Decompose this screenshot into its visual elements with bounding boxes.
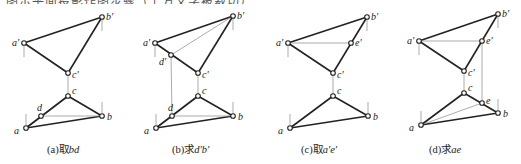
point-e — [480, 101, 485, 106]
label-e-prime: e' — [355, 37, 362, 48]
edge-a-b-prime — [155, 16, 233, 43]
caption-c-var: a'e' — [323, 144, 337, 155]
caption-a: (a)取bd — [47, 141, 79, 156]
point-c — [66, 94, 71, 99]
edge-a-c-prime — [419, 41, 464, 71]
edge-b-c — [198, 96, 233, 116]
edge-b-c — [68, 96, 102, 116]
edge-b-c-prime — [68, 17, 102, 73]
point-c — [331, 94, 336, 99]
caption-a-prefix: (a)取 — [47, 144, 69, 155]
edge-a-b — [290, 116, 368, 128]
point-a — [288, 126, 293, 131]
label-a-prime: a' — [276, 37, 284, 48]
caption-a-var: bd — [69, 144, 80, 155]
edge-a-b-prime — [24, 17, 102, 43]
aux-ae — [421, 103, 482, 125]
point-c-prime — [196, 71, 201, 76]
projection-diagrams: a'b'c'abcda'b'c'd'abcda'b'c'e'abca'b'c'e… — [0, 0, 521, 164]
point-e-prime — [480, 39, 485, 44]
edge-a-b — [421, 113, 498, 125]
label-b: b — [503, 108, 508, 119]
caption-b-var: d'b' — [194, 144, 209, 155]
edge-a-c-prime — [288, 43, 333, 73]
point-a — [154, 126, 159, 131]
caption-c: (c)取a'e' — [301, 141, 337, 156]
point-d — [170, 114, 175, 119]
point-d-prime — [169, 53, 174, 58]
label-c-prime: c' — [468, 67, 475, 78]
label-c: c — [202, 85, 207, 96]
point-d — [39, 114, 44, 119]
label-c-prime: c' — [337, 69, 344, 80]
point-e-prime — [349, 41, 354, 46]
edge-a-b — [156, 116, 233, 128]
label-a-prime: a' — [143, 37, 151, 48]
label-c: c — [72, 85, 77, 96]
aux-d-b-prime — [171, 16, 233, 55]
label-c: c — [468, 82, 473, 93]
label-d: d — [168, 102, 174, 113]
edge-b-c — [333, 96, 368, 116]
point-b — [231, 114, 236, 119]
caption-d-prefix: (d)求 — [429, 144, 451, 155]
label-c-prime: c' — [72, 69, 79, 80]
edge-a-c — [26, 96, 68, 128]
label-e-prime: e' — [486, 35, 493, 46]
label-c: c — [337, 85, 342, 96]
point-b-prime — [496, 12, 501, 17]
caption-d-var: ae — [451, 144, 461, 155]
point-b — [100, 114, 105, 119]
point-a-prime — [286, 41, 291, 46]
point-a — [419, 123, 424, 128]
label-b-prime: b' — [371, 11, 379, 22]
label-d-prime: d' — [159, 56, 167, 67]
label-a: a — [409, 122, 414, 133]
point-b — [366, 114, 371, 119]
point-a-prime — [417, 39, 422, 44]
label-b-prime: b' — [237, 10, 245, 21]
label-a: a — [14, 125, 19, 136]
point-b — [496, 111, 501, 116]
edge-b-c-prime — [198, 16, 233, 73]
point-c-prime — [66, 71, 71, 76]
caption-d: (d)求ae — [429, 141, 461, 156]
point-c — [462, 91, 467, 96]
point-c-prime — [331, 71, 336, 76]
edge-a-c — [421, 93, 464, 125]
label-b: b — [107, 111, 112, 122]
point-c — [196, 94, 201, 99]
edge-a-b — [26, 116, 102, 128]
label-a-prime: a' — [407, 35, 415, 46]
label-b-prime: b' — [502, 8, 510, 19]
label-a: a — [144, 125, 149, 136]
label-b: b — [373, 111, 378, 122]
label-d: d — [37, 102, 43, 113]
caption-c-prefix: (c)取 — [301, 144, 323, 155]
point-b-prime — [365, 15, 370, 20]
label-a-prime: a' — [12, 37, 20, 48]
point-a-prime — [22, 41, 27, 46]
label-b-prime: b' — [106, 11, 114, 22]
label-e: e — [486, 95, 491, 106]
caption-b: (b)求d'b' — [172, 141, 209, 156]
point-b-prime — [231, 14, 236, 19]
caption-b-prefix: (b)求 — [172, 144, 194, 155]
edge-a-c-prime — [24, 43, 68, 73]
label-b: b — [238, 111, 243, 122]
edge-a-c — [290, 96, 333, 128]
point-c-prime — [462, 69, 467, 74]
point-a-prime — [153, 41, 158, 46]
point-b-prime — [100, 15, 105, 20]
point-a — [24, 126, 29, 131]
label-c-prime: c' — [202, 69, 209, 80]
label-a: a — [278, 125, 283, 136]
